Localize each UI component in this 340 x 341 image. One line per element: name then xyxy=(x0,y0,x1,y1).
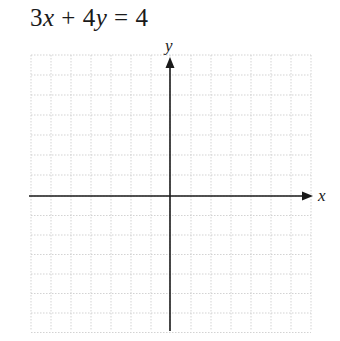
x-axis-label: x xyxy=(317,186,326,205)
y-axis-label: y xyxy=(163,36,173,55)
x-axis xyxy=(29,192,313,201)
coordinate-plane[interactable]: x y xyxy=(0,0,340,341)
grid-lines xyxy=(31,55,311,333)
y-axis-arrow-icon xyxy=(166,57,175,68)
y-axis xyxy=(166,57,175,331)
